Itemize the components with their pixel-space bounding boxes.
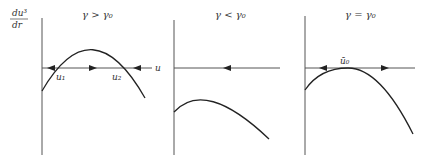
panel-gamma-equal: γ = γ₀ ū₀ [305, 9, 415, 155]
phase-diagram: du³ dr γ > γ₀ u₁ u₂ u γ < γ₀ γ = γ₀ ū₀ [0, 0, 428, 164]
arrow-left-icon [319, 65, 327, 71]
curve [174, 100, 269, 139]
arrow-left-icon [223, 65, 231, 71]
panel-title: γ = γ₀ [345, 9, 376, 20]
arrow-left-icon [133, 65, 141, 71]
panel-title: γ < γ₀ [215, 9, 246, 20]
panel-title: γ > γ₀ [82, 9, 113, 20]
panel-gamma-less: γ < γ₀ [174, 9, 280, 155]
arrow-left-icon [47, 65, 55, 71]
y-axis-label: du³ dr [10, 8, 28, 30]
root-label-u1: u₁ [56, 72, 65, 82]
root-label-u2: u₂ [112, 72, 122, 82]
x-axis-label: u [155, 63, 161, 73]
arrow-right-icon [381, 65, 389, 71]
y-axis-label-numerator: du³ [12, 8, 28, 18]
panel-gamma-greater: γ > γ₀ u₁ u₂ [42, 9, 145, 155]
root-label-u0: ū₀ [340, 56, 350, 66]
curve [305, 68, 413, 134]
arrow-right-icon [89, 65, 97, 71]
y-axis-label-denominator: dr [12, 20, 23, 30]
